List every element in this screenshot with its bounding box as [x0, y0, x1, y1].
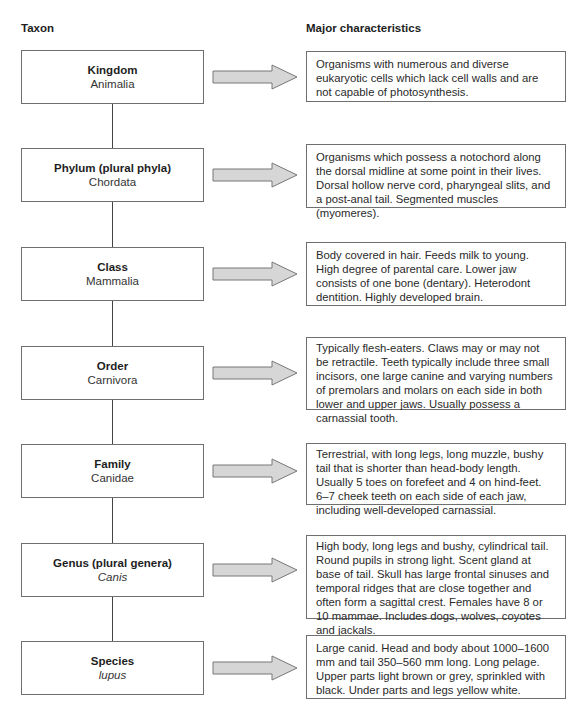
- taxon-box-order: Order Carnivora: [21, 346, 204, 400]
- taxon-box-phylum: Phylum (plural phyla) Chordata: [21, 148, 204, 202]
- taxon-box-family: Family Canidae: [21, 444, 204, 498]
- right-arrow-icon: [212, 64, 298, 90]
- connector-line: [112, 400, 113, 445]
- taxon-rank: Phylum (plural phyla): [54, 161, 171, 175]
- right-arrow-icon: [212, 655, 298, 681]
- taxon-rank: Kingdom: [88, 63, 138, 77]
- taxon-name: Canidae: [91, 471, 134, 485]
- taxon-rank: Order: [97, 359, 128, 373]
- characteristics-column-header: Major characteristics: [306, 22, 421, 34]
- description-box-kingdom: Organisms with numerous and diverse euka…: [306, 51, 566, 102]
- description-box-class: Body covered in hair. Feeds milk to youn…: [306, 242, 566, 306]
- right-arrow-icon: [212, 557, 298, 583]
- right-arrow-icon: [212, 261, 298, 287]
- description-box-order: Typically flesh-eaters. Claws may or may…: [306, 337, 566, 410]
- taxon-box-kingdom: Kingdom Animalia: [21, 50, 204, 104]
- connector-line: [112, 202, 113, 248]
- taxon-rank: Genus (plural genera): [53, 556, 172, 570]
- right-arrow-icon: [212, 360, 298, 386]
- taxon-name: Carnivora: [88, 373, 138, 387]
- connector-line: [112, 498, 113, 544]
- right-arrow-icon: [212, 162, 298, 188]
- taxon-name: Canis: [98, 570, 127, 584]
- taxon-box-genus: Genus (plural genera) Canis: [21, 543, 204, 597]
- description-box-family: Terrestrial, with long legs, long muzzle…: [306, 443, 566, 505]
- taxon-rank: Family: [94, 457, 130, 471]
- description-box-genus: High body, long legs and bushy, cylindri…: [306, 535, 566, 619]
- taxon-name: lupus: [99, 668, 127, 682]
- taxon-name: Animalia: [90, 77, 134, 91]
- taxon-box-class: Class Mammalia: [21, 247, 204, 301]
- taxon-column-header: Taxon: [21, 22, 54, 34]
- taxon-name: Chordata: [89, 175, 136, 189]
- taxon-name: Mammalia: [86, 274, 139, 288]
- right-arrow-icon: [212, 458, 298, 484]
- taxon-box-species: Species lupus: [21, 641, 204, 695]
- connector-line: [112, 301, 113, 347]
- description-box-phylum: Organisms which possess a notochord alon…: [306, 144, 566, 208]
- taxon-rank: Species: [91, 654, 134, 668]
- description-box-species: Large canid. Head and body about 1000–16…: [306, 635, 566, 699]
- connector-line: [112, 597, 113, 642]
- taxon-rank: Class: [97, 260, 128, 274]
- connector-line: [112, 104, 113, 149]
